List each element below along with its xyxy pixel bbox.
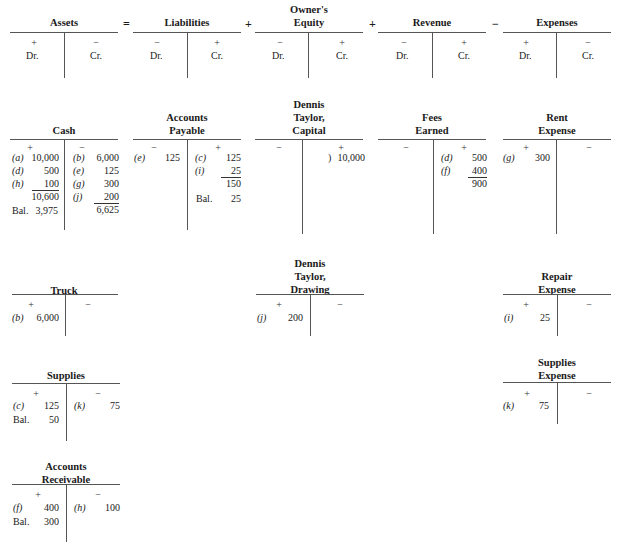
entry-amount: 100	[32, 178, 59, 191]
supplies-expense-title-2: Expense	[503, 369, 611, 382]
entry-ref: (h)	[12, 178, 24, 190]
accounts-receivable-minus-sign: −	[92, 490, 104, 500]
entry-amount: 125	[140, 152, 180, 164]
entry-amount: 75	[509, 400, 549, 412]
supplies-plus-sign: +	[30, 389, 42, 399]
revenue-dr-label: Dr.	[396, 50, 409, 61]
accounts-payable-title-2: Payable	[133, 124, 241, 137]
assets-plus-sign: +	[28, 38, 40, 48]
supplies-expense-divider	[557, 382, 558, 424]
capital-divider	[302, 139, 303, 234]
expenses-divider	[556, 32, 557, 78]
assets-dr-label: Dr.	[26, 50, 39, 61]
entry-amount: 300	[79, 178, 119, 190]
capital-rule	[255, 139, 363, 140]
accounts-receivable-balance: 300	[19, 516, 59, 528]
entry-amount: 25	[510, 312, 550, 324]
entry-amount: 400	[468, 165, 487, 178]
capital-title-1: Dennis	[255, 98, 363, 111]
entry-amount: 200	[94, 191, 119, 204]
equity-plus-sign: +	[336, 38, 348, 48]
cash-divider	[64, 139, 65, 230]
repair-expense-plus-sign: +	[520, 300, 532, 310]
cash-title: Cash	[10, 124, 118, 137]
fees-earned-divider	[433, 139, 434, 234]
fees-earned-credit-total: 900	[447, 178, 487, 190]
entry-amount: 75	[80, 400, 120, 412]
rent-expense-title-1: Rent	[503, 111, 611, 124]
drawing-title-1: Dennis	[256, 257, 364, 270]
entry-ref: (i)	[195, 165, 204, 177]
equals-operator: =	[123, 18, 130, 30]
entry-amount: 25	[221, 165, 241, 178]
liabilities-dr-label: Dr.	[150, 50, 163, 61]
accounts-payable-balance: 25	[201, 193, 241, 205]
assets-divider	[64, 32, 65, 78]
expenses-minus-sign: −	[582, 38, 594, 48]
equity-dr-label: Dr.	[272, 50, 285, 61]
entry-amount: 500	[447, 152, 487, 164]
supplies-minus-sign: −	[92, 389, 104, 399]
revenue-cr-label: Cr.	[458, 50, 470, 61]
entry-amount: 500	[19, 165, 59, 177]
entry-amount: 125	[201, 152, 241, 164]
accounts-payable-credit-total: 150	[201, 178, 241, 190]
liabilities-divider	[187, 32, 188, 78]
rent-expense-divider	[556, 139, 557, 234]
cash-debit-total: 10,600	[19, 191, 59, 203]
accounts-receivable-plus-sign: +	[32, 490, 44, 500]
entry-amount: 125	[19, 400, 59, 412]
repair-expense-title-1: Repair	[503, 270, 611, 283]
revenue-plus-sign: +	[458, 38, 470, 48]
repair-expense-minus-sign: −	[583, 300, 595, 310]
revenue-title: Revenue	[378, 16, 486, 29]
supplies-divider	[66, 383, 67, 441]
entry-amount: 100	[80, 502, 120, 514]
entry-amount: 400	[19, 502, 59, 514]
entry-amount: 300	[510, 152, 550, 164]
fees-earned-title-2: Earned	[378, 124, 486, 137]
accounts-payable-divider	[187, 139, 188, 230]
supplies-expense-plus-sign: +	[521, 389, 533, 399]
entry-amount: 125	[79, 165, 119, 177]
entry-amount: 200	[263, 312, 303, 324]
equity-rule	[255, 32, 363, 33]
assets-title: Assets	[10, 16, 118, 29]
expenses-plus-sign: +	[520, 38, 532, 48]
fees-earned-title-1: Fees	[378, 111, 486, 124]
supplies-expense-minus-sign: −	[583, 389, 595, 399]
drawing-minus-sign: −	[334, 300, 346, 310]
accounts-payable-title-1: Accounts	[133, 111, 241, 124]
truck-divider	[65, 294, 66, 336]
truck-plus-sign: +	[25, 300, 37, 310]
minus-operator: −	[492, 18, 499, 30]
expenses-dr-label: Dr.	[519, 50, 532, 61]
plus-operator-1: +	[245, 18, 252, 30]
expenses-title: Expenses	[503, 16, 611, 29]
liabilities-cr-label: Cr.	[211, 50, 223, 61]
rent-expense-minus-sign: −	[583, 143, 595, 153]
liabilities-minus-sign: −	[151, 38, 163, 48]
equity-title: Equity	[255, 16, 363, 29]
repair-expense-divider	[557, 294, 558, 336]
equity-cr-label: Cr.	[336, 50, 348, 61]
liabilities-title: Liabilities	[133, 16, 241, 29]
drawing-divider	[310, 294, 311, 336]
entry-amount: 6,000	[19, 312, 59, 324]
cash-balance: 3,975	[18, 205, 58, 217]
assets-cr-label: Cr.	[90, 50, 102, 61]
equity-minus-sign: −	[274, 38, 286, 48]
expenses-rule	[503, 32, 611, 33]
entry-amount: 6,000	[79, 152, 119, 164]
supplies-expense-title-1: Supplies	[503, 356, 611, 369]
supplies-balance: 50	[19, 414, 59, 426]
drawing-title-2: Taylor,	[256, 270, 364, 283]
assets-minus-sign: −	[90, 38, 102, 48]
fees-earned-minus-sign: −	[400, 143, 412, 153]
entry-ref: (f)	[441, 165, 450, 177]
entry-ref: (j)	[73, 191, 82, 203]
capital-title-2: Taylor,	[255, 111, 363, 124]
truck-title: Truck	[10, 284, 118, 297]
expenses-cr-label: Cr.	[582, 50, 594, 61]
entry-amount: 10,000	[325, 152, 365, 164]
